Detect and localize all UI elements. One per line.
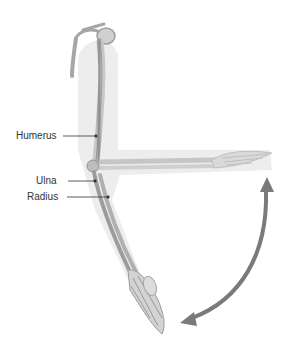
- label-ulna: Ulna: [36, 175, 57, 187]
- arrowhead-up-icon: [260, 177, 274, 192]
- arm-silhouette: [78, 40, 272, 305]
- label-radius: Radius: [27, 191, 58, 203]
- range-of-motion-arrow: [180, 177, 274, 326]
- hand-extended: [128, 270, 164, 334]
- label-humerus: Humerus: [16, 130, 57, 142]
- arrowhead-down-left-icon: [180, 312, 197, 326]
